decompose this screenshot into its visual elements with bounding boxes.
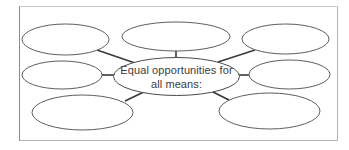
bubble-middle-left <box>22 61 102 89</box>
center-label-line-1: Equal opportunities for <box>120 63 232 77</box>
bubble-top-left <box>22 24 109 55</box>
bubble-top-center <box>122 22 230 51</box>
bubble-bottom-left <box>32 95 133 130</box>
bubble-bottom-right <box>219 93 320 129</box>
center-label: Equal opportunities for all means: <box>113 58 240 96</box>
bubble-top-right <box>242 24 329 54</box>
bubble-middle-right <box>249 60 330 89</box>
center-label-line-2: all means: <box>151 77 202 91</box>
